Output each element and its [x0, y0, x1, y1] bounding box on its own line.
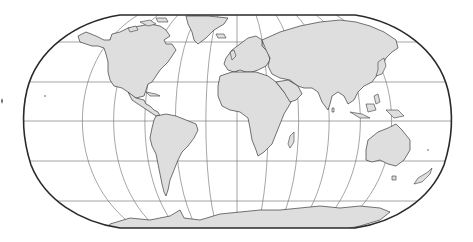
madagascar — [288, 132, 294, 148]
south-america — [150, 114, 198, 196]
australia — [366, 124, 410, 166]
tasmania — [392, 176, 396, 180]
edge-mark — [1, 98, 3, 104]
world-map-svg — [0, 0, 473, 242]
new-zealand — [414, 168, 432, 184]
arctic-island — [156, 18, 168, 22]
new-guinea — [386, 110, 404, 118]
pacific-islet-dot — [427, 149, 429, 151]
north-america — [78, 24, 176, 98]
meridian-30w — [206, 15, 218, 228]
greenland — [186, 16, 228, 44]
hawaii-dot — [44, 95, 46, 97]
cuba — [146, 92, 160, 96]
iceland — [216, 34, 226, 38]
world-map — [0, 0, 473, 242]
antarctica — [100, 206, 390, 240]
philippines — [374, 94, 380, 104]
borneo — [366, 104, 376, 112]
sri-lanka — [332, 108, 334, 112]
